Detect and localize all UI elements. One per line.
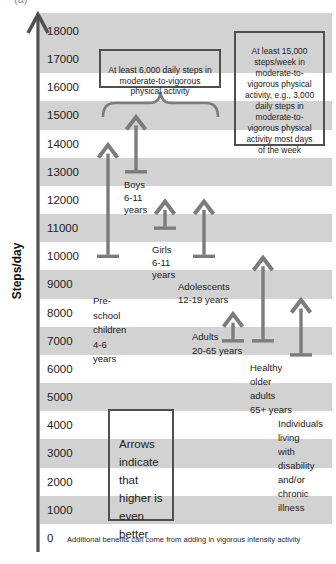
group-label-girls: Girls 6-11 years [152,244,175,282]
group-label-preschool: Pre- school children 4-6 years [93,294,126,367]
group-label-older-adults: Healthy older adults 65+ years [250,361,292,417]
group-label-adolescents: Adolescents 12-19 years [178,280,230,306]
footnote: Additional benefits can come from adding… [67,535,300,544]
weekly-steps-annotation-box: At least 15,000 steps/week in moderate-t… [234,31,325,146]
steps-per-day-recommendations-chart: (a) Steps/day 18000170001600015000140001… [0,0,336,564]
arrows-note-box: Arrows indicate that higher is even bett… [108,409,174,521]
group-label-adults: Adults 20-65 years [192,330,242,358]
children-steps-annotation-box: At least 6,000 daily steps in moderate-t… [99,49,221,88]
group-label-disability: Individuals living with disability and/o… [278,417,323,515]
group-label-boys: Boys 6-11 years [124,179,147,217]
weekly-steps-annotation-text: At least 15,000 steps/week in moderate-t… [245,46,314,155]
